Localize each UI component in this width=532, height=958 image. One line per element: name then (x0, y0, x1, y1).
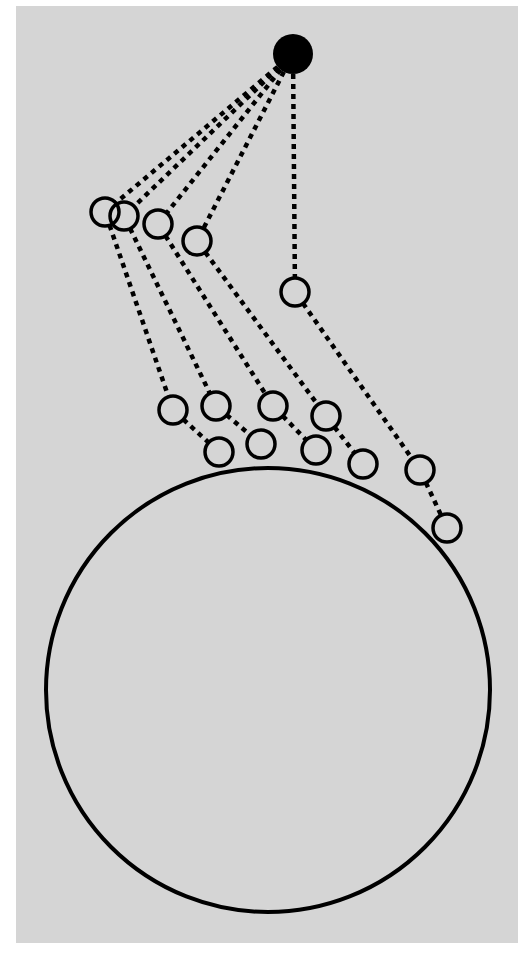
gray-background-panel (16, 6, 518, 943)
anchor-point-filled-circle (273, 34, 313, 74)
dashed-link-E-0 (293, 74, 295, 278)
diagram-canvas (0, 0, 532, 958)
